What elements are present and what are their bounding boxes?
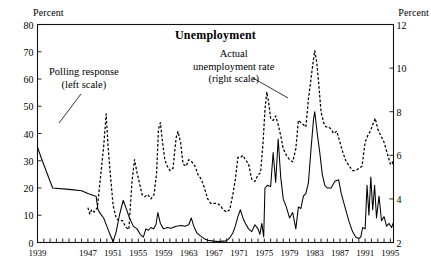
y-right-axis-label-8: 8	[397, 106, 417, 117]
y-left-axis-label-0: 0	[14, 237, 34, 248]
y-right-axis-label-10: 10	[397, 63, 417, 74]
leader-line-actual-unemployment	[253, 78, 288, 98]
x-axis-label-1995: 1995	[381, 248, 399, 258]
y-right-axis-label-2: 2	[397, 237, 417, 248]
y-left-axis-label-80: 80	[14, 19, 34, 30]
x-axis-label-1947: 1947	[79, 248, 97, 258]
x-axis-ticks	[38, 239, 391, 243]
y-right-axis-label-4: 4	[397, 193, 417, 204]
series-actual-unemployment-rate	[88, 51, 394, 230]
x-axis-label-1979: 1979	[281, 248, 299, 258]
y-left-axis-label-30: 30	[14, 155, 34, 166]
y-left-axis-label-20: 20	[14, 183, 34, 194]
y-left-axis-label-60: 60	[14, 74, 34, 85]
y-left-axis-label-40: 40	[14, 128, 34, 139]
x-axis-label-1991: 1991	[356, 248, 374, 258]
y-left-axis-label-50: 50	[14, 101, 34, 112]
y-right-axis-label-12: 12	[397, 19, 417, 30]
y-left-axis-label-10: 10	[14, 210, 34, 221]
x-axis-label-1987: 1987	[331, 248, 349, 258]
plot-area	[0, 0, 431, 273]
series-polling-response	[38, 112, 394, 242]
y-left-axis-label-70: 70	[14, 46, 34, 57]
x-axis-label-1951: 1951	[104, 248, 122, 258]
leader-line-polling-response	[59, 94, 81, 123]
x-axis-label-1963: 1963	[180, 248, 198, 258]
x-axis-label-1967: 1967	[205, 248, 223, 258]
y-right-axis-label-6: 6	[397, 150, 417, 161]
x-axis-label-1939: 1939	[29, 248, 47, 258]
x-axis-label-1971: 1971	[230, 248, 248, 258]
unemployment-chart-figure: Percent Percent Unemployment Polling res…	[0, 0, 431, 273]
right-axis-ticks	[390, 25, 394, 243]
x-axis-label-1955: 1955	[129, 248, 147, 258]
left-axis-ticks	[38, 25, 42, 243]
x-axis-label-1983: 1983	[306, 248, 324, 258]
x-axis-label-1959: 1959	[155, 248, 173, 258]
x-axis-label-1975: 1975	[255, 248, 273, 258]
plot-frame	[38, 25, 394, 243]
